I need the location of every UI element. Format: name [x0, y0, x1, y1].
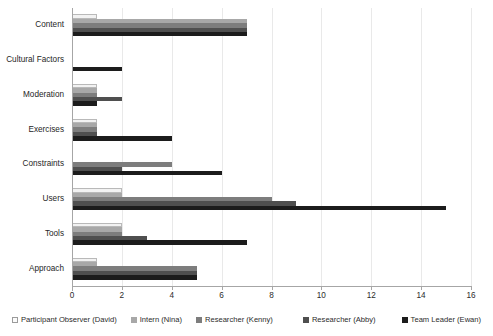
y-axis-tick-label: Cultural Factors	[0, 56, 64, 64]
bar	[72, 240, 247, 244]
bar-row	[72, 136, 471, 140]
bar-chart: Participant Observer (David)Intern (Nina…	[0, 0, 493, 336]
bar	[72, 32, 247, 36]
x-axis-tick	[471, 286, 472, 290]
legend-label: Researcher (Abby)	[312, 316, 376, 324]
bar-group-content	[72, 14, 471, 36]
bar	[72, 206, 446, 210]
bar-group-moderation	[72, 84, 471, 106]
y-axis-tick-label: Approach	[0, 265, 64, 273]
y-axis-line	[72, 8, 73, 291]
x-axis-tick-label: 2	[110, 292, 134, 300]
grid-line	[471, 8, 472, 286]
plot-area	[72, 8, 471, 286]
y-axis-tick-label: Constraints	[0, 160, 64, 168]
bar	[72, 171, 222, 175]
bar-row	[72, 275, 471, 279]
y-axis-tick-label: Content	[0, 21, 64, 29]
legend-swatch-icon	[12, 317, 18, 323]
bar	[72, 136, 172, 140]
x-axis-tick	[72, 286, 73, 290]
legend-item-1[interactable]: Intern (Nina)	[131, 316, 182, 324]
x-axis-tick-label: 0	[60, 292, 84, 300]
legend-label: Intern (Nina)	[140, 316, 182, 324]
legend-item-3[interactable]: Researcher (Abby)	[303, 316, 376, 324]
bar-group-tools	[72, 223, 471, 245]
bar-row	[72, 171, 471, 175]
bar-group-exercises	[72, 119, 471, 141]
legend-item-0[interactable]: Participant Observer (David)	[12, 316, 117, 324]
bar	[72, 67, 122, 71]
bar	[72, 275, 197, 279]
x-axis-tick	[321, 286, 322, 290]
y-axis-tick-label: Users	[0, 195, 64, 203]
y-axis-tick-label: Tools	[0, 230, 64, 238]
bar-row	[72, 32, 471, 36]
legend-label: Researcher (Kenny)	[205, 316, 273, 324]
x-axis-tick	[172, 286, 173, 290]
bar-row	[72, 101, 471, 105]
bar-group-users	[72, 188, 471, 210]
bar-row	[72, 206, 471, 210]
x-axis-tick-label: 12	[359, 292, 383, 300]
legend-swatch-icon	[196, 317, 202, 323]
legend-item-2[interactable]: Researcher (Kenny)	[196, 316, 273, 324]
bar-group-approach	[72, 258, 471, 280]
chart-legend: Participant Observer (David)Intern (Nina…	[0, 311, 493, 329]
x-axis-tick-label: 8	[260, 292, 284, 300]
x-axis-tick	[272, 286, 273, 290]
bar-group-cultural-factors	[72, 49, 471, 71]
x-axis-tick-label: 10	[309, 292, 333, 300]
legend-label: Participant Observer (David)	[21, 316, 117, 324]
legend-swatch-icon	[303, 317, 309, 323]
x-axis-tick-label: 16	[459, 292, 483, 300]
y-axis-tick-label: Moderation	[0, 91, 64, 99]
x-axis-tick-label: 6	[210, 292, 234, 300]
legend-label: Team Leader (Ewan)	[411, 316, 482, 324]
legend-item-4[interactable]: Team Leader (Ewan)	[402, 316, 482, 324]
x-axis-tick	[371, 286, 372, 290]
legend-swatch-icon	[131, 317, 137, 323]
x-axis-tick	[222, 286, 223, 290]
legend-swatch-icon	[402, 317, 408, 323]
x-axis-tick	[421, 286, 422, 290]
bar-group-constraints	[72, 153, 471, 175]
x-axis-tick	[122, 286, 123, 290]
bar-row	[72, 67, 471, 71]
y-axis-tick-label: Exercises	[0, 126, 64, 134]
bar-row	[72, 240, 471, 244]
bar	[72, 101, 97, 105]
x-axis-tick-label: 4	[160, 292, 184, 300]
x-axis-tick-label: 14	[409, 292, 433, 300]
